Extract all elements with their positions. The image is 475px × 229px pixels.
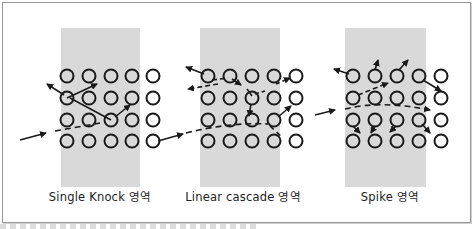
target-region-spike (345, 28, 426, 187)
atom-icon (435, 70, 448, 83)
atom-icon (435, 135, 448, 148)
atom-icon (290, 92, 303, 105)
incident-ion-arrow (315, 110, 335, 115)
atom-icon (290, 114, 303, 127)
target-region-shades (61, 28, 426, 187)
panel-label-spike: Spike 영역 (361, 188, 419, 204)
target-region-linear-cascade (200, 28, 280, 187)
incident-ion-arrow (20, 133, 46, 140)
atom-icon (435, 92, 448, 105)
panel-label-single-knock: Single Knock 영역 (49, 188, 152, 204)
panel-label-linear-cascade: Linear cascade 영역 (185, 188, 301, 204)
incident-ion-arrow (158, 134, 183, 141)
atom-icon (290, 135, 303, 148)
atom-icon (147, 135, 160, 148)
atom-icon (147, 114, 160, 127)
atom-icon (435, 114, 448, 127)
atom-icon (147, 70, 160, 83)
atom-icon (290, 70, 303, 83)
cropped-caption (0, 224, 260, 229)
atom-icon (147, 92, 160, 105)
